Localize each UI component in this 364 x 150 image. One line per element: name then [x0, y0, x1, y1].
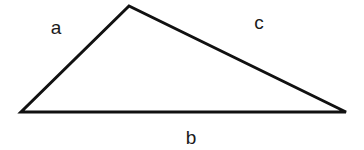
side-label-c: c — [254, 13, 264, 32]
side-label-a: a — [51, 18, 62, 37]
triangle-diagram: a c b — [0, 0, 364, 150]
triangle-shape — [21, 6, 346, 112]
side-label-b: b — [186, 128, 197, 147]
